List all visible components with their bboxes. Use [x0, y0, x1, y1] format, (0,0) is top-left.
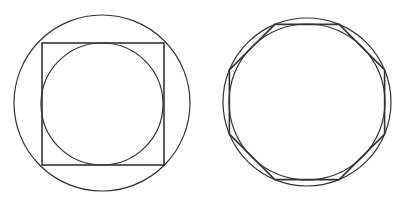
diagram-canvas [0, 0, 398, 205]
geometry-figures [0, 0, 398, 205]
inscribed-octagon [229, 24, 384, 179]
inner-circle [41, 43, 163, 165]
outer-circle [223, 18, 391, 186]
figure-circle-octagon-circle [223, 18, 391, 186]
figure-circle-square-circle [14, 15, 190, 191]
